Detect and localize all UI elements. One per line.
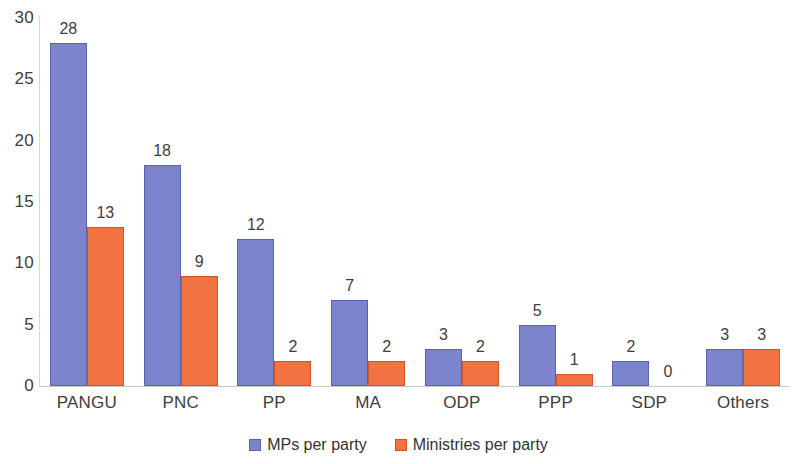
bar-others-series-1[interactable]: [743, 349, 780, 386]
bar-value-label: 18: [132, 143, 192, 159]
x-axis-tick-label: MA: [321, 392, 415, 414]
bar-pair: 189: [134, 18, 228, 386]
bar-chart: 051015202530 28131891227232512033 PANGUP…: [0, 0, 797, 464]
bar-value-label: 7: [320, 278, 380, 294]
y-axis-tick-label: 25: [2, 70, 34, 87]
bar-group: 72: [321, 18, 415, 386]
chart-legend: MPs per partyMinistries per party: [0, 437, 797, 453]
bar-pangu-series-1[interactable]: [87, 227, 124, 386]
bar-value-label: 5: [507, 303, 567, 319]
x-axis-tick-label: ODP: [415, 392, 509, 414]
bar-ppp-series-1[interactable]: [556, 374, 593, 386]
bar-value-label: 2: [263, 339, 323, 355]
plot-area: 28131891227232512033: [40, 18, 790, 386]
y-axis-tick-label: 20: [2, 132, 34, 149]
bar-pp-series-1[interactable]: [274, 361, 311, 386]
bar-value-label: 2: [357, 339, 417, 355]
legend-swatch-icon: [249, 439, 261, 451]
y-axis-tick-label: 10: [2, 254, 34, 271]
legend-item-0[interactable]: MPs per party: [249, 437, 367, 453]
bar-pnc-series-1[interactable]: [181, 276, 218, 386]
bar-value-label: 12: [226, 217, 286, 233]
bar-pair: 32: [415, 18, 509, 386]
x-axis: PANGUPNCPPMAODPPPPSDPOthers: [40, 392, 790, 422]
bar-group: 32: [415, 18, 509, 386]
x-axis-tick-label: PANGU: [40, 392, 134, 414]
bar-ma-series-1[interactable]: [368, 361, 405, 386]
bar-value-label: 2: [450, 339, 510, 355]
bar-group: 20: [603, 18, 697, 386]
x-axis-tick-label: PPP: [509, 392, 603, 414]
x-axis-tick-label: SDP: [603, 392, 697, 414]
legend-swatch-icon: [395, 439, 407, 451]
bar-odp-series-1[interactable]: [462, 361, 499, 386]
bar-group: 2813: [40, 18, 134, 386]
bar-group: 51: [509, 18, 603, 386]
x-axis-tick-label: PP: [228, 392, 322, 414]
bar-others-series-0[interactable]: [706, 349, 743, 386]
bar-value-label: 9: [169, 254, 229, 270]
bar-value-label: 1: [544, 352, 604, 368]
bar-group: 189: [134, 18, 228, 386]
bar-group: 122: [228, 18, 322, 386]
y-axis-tick-label: 30: [2, 9, 34, 26]
bar-group: 33: [696, 18, 790, 386]
bar-pair: 20: [603, 18, 697, 386]
x-axis-tick-label: PNC: [134, 392, 228, 414]
legend-label: Ministries per party: [413, 437, 548, 453]
bar-pp-series-0[interactable]: [237, 239, 274, 386]
bar-value-label: 3: [732, 327, 792, 343]
bar-pair: 122: [228, 18, 322, 386]
bar-value-label: 2: [601, 339, 661, 355]
y-axis: 051015202530: [0, 0, 34, 464]
bar-value-label: 28: [38, 21, 98, 37]
bar-value-label: 0: [638, 364, 698, 380]
bar-pair: 72: [321, 18, 415, 386]
bar-pair: 2813: [40, 18, 134, 386]
y-axis-tick-label: 15: [2, 193, 34, 210]
bar-pair: 51: [509, 18, 603, 386]
bar-pnc-series-0[interactable]: [144, 165, 181, 386]
bar-value-label: 13: [75, 205, 135, 221]
y-axis-tick-label: 5: [2, 316, 34, 333]
x-axis-tick-label: Others: [696, 392, 790, 414]
legend-label: MPs per party: [267, 437, 367, 453]
bar-pair: 33: [696, 18, 790, 386]
x-axis-line: [39, 386, 790, 387]
legend-item-1[interactable]: Ministries per party: [395, 437, 548, 453]
y-axis-tick-label: 0: [2, 377, 34, 394]
